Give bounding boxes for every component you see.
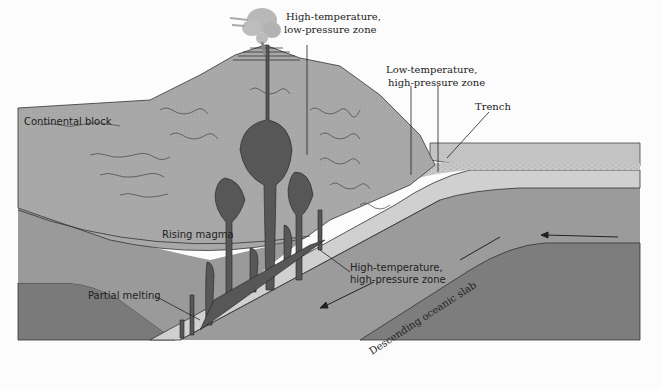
diagram-canvas: High-temperature, low-pressure zone Low-… xyxy=(0,0,662,389)
label-rising-magma: Rising magma xyxy=(162,229,234,240)
label-trench: Trench xyxy=(475,101,511,112)
label-continental-block: Continental block xyxy=(24,116,112,127)
label-high-temp-high-pressure-1: High-temperature, xyxy=(350,262,443,273)
label-high-temp-low-pressure-1: High-temperature, xyxy=(286,11,381,22)
subduction-diagram: High-temperature, low-pressure zone Low-… xyxy=(0,0,662,389)
label-low-temp-high-pressure-2: high-pressure zone xyxy=(388,77,485,88)
label-high-temp-low-pressure-2: low-pressure zone xyxy=(284,24,377,35)
label-partial-melting: Partial melting xyxy=(88,290,161,301)
label-low-temp-high-pressure-1: Low-temperature, xyxy=(386,64,477,75)
label-high-temp-high-pressure-2: high-pressure zone xyxy=(350,274,446,285)
